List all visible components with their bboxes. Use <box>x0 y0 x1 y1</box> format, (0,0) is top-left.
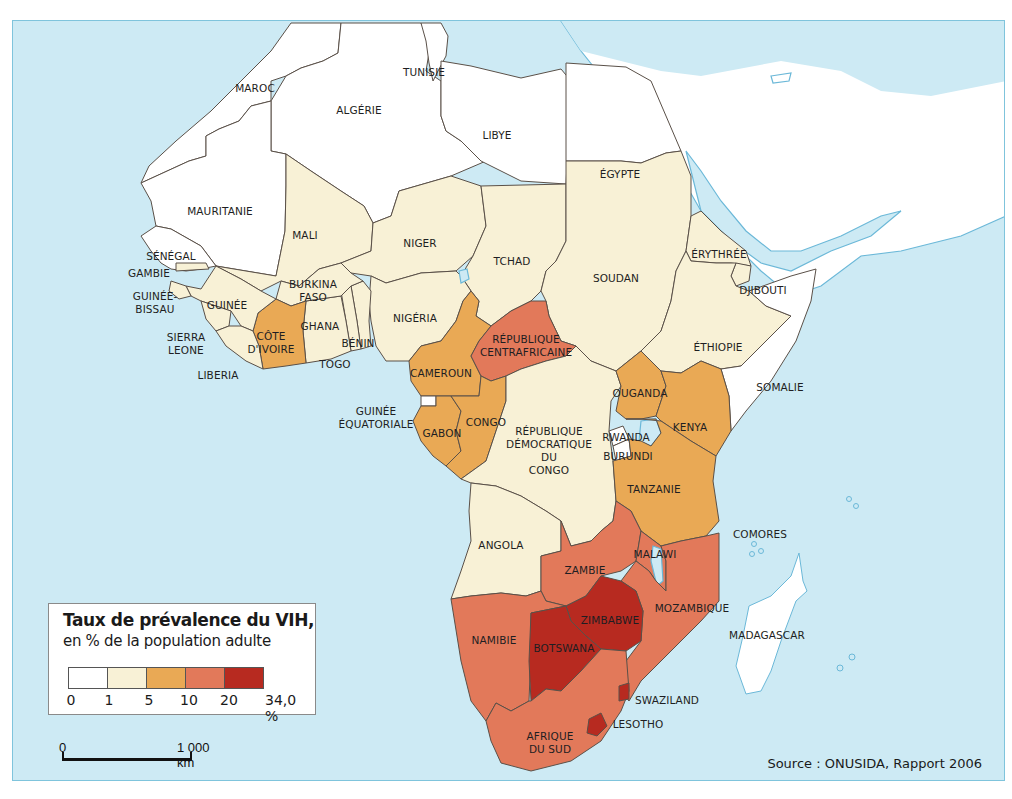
label-guinee-equatoriale: GUINÉEÉQUATORIALE <box>339 405 414 431</box>
label-afrique-sud: AFRIQUEDU SUD <box>527 730 574 756</box>
label-kenya: KENYA <box>673 421 708 434</box>
label-swaziland: SWAZILAND <box>635 694 699 707</box>
island-comores-3 <box>759 549 764 554</box>
country-swaziland[interactable] <box>619 683 629 701</box>
label-mali: MALI <box>292 229 318 242</box>
legend-tick: 10 <box>180 692 198 708</box>
label-mauritanie: MAURITANIE <box>187 205 253 218</box>
label-burundi: BURUNDI <box>603 450 653 463</box>
label-botswana: BOTSWANA <box>533 642 594 655</box>
label-gabon: GABON <box>423 427 462 440</box>
legend-title: Taux de prévalence du VIH, <box>63 610 314 630</box>
label-burkina-faso: BURKINAFASO <box>289 278 337 304</box>
label-togo: TOGO <box>319 358 350 371</box>
label-lesotho: LESOTHO <box>613 718 664 731</box>
label-malawi: MALAWI <box>633 548 676 561</box>
label-ethiopie: ÉTHIOPIE <box>693 341 742 354</box>
island-seychelles-1 <box>854 504 859 509</box>
label-guinee: GUINÉE <box>207 299 248 312</box>
label-erythree: ÉRYTHRÉE <box>691 248 746 261</box>
label-egypte: ÉGYPTE <box>600 168 641 181</box>
label-tunisie: TUNISIE <box>403 66 445 79</box>
label-namibie: NAMIBIE <box>472 634 517 647</box>
island-seychelles-2 <box>847 497 852 502</box>
label-cameroun: CAMEROUN <box>410 367 472 380</box>
label-comores: COMORES <box>733 528 787 541</box>
country-madagascar[interactable] <box>736 553 807 694</box>
label-maroc: MAROC <box>235 82 275 95</box>
legend-tick: 34,0 % <box>265 692 297 724</box>
label-zambie: ZAMBIE <box>565 564 606 577</box>
label-libye: LIBYE <box>482 129 511 142</box>
legend-subtitle: en % de la population adulte <box>63 632 271 650</box>
legend-swatch-20-34 <box>224 667 264 689</box>
label-mozambique: MOZAMBIQUE <box>655 602 730 615</box>
label-guinee-bissau: GUINÉE-BISSAU <box>133 290 178 316</box>
label-djibouti: DJIBOUTI <box>739 284 787 297</box>
source-note: Source : ONUSIDA, Rapport 2006 <box>767 756 982 771</box>
label-tanzanie: TANZANIE <box>627 483 680 496</box>
label-soudan: SOUDAN <box>593 272 639 285</box>
legend-swatch-10-20 <box>185 667 225 689</box>
scale-bar: 0 1 000 km <box>60 740 220 770</box>
legend-tick: 5 <box>145 692 154 708</box>
legend-swatch-1-5 <box>107 667 147 689</box>
legend-swatch-5-10 <box>146 667 186 689</box>
label-nigeria: NIGÉRIA <box>393 312 437 325</box>
island-mascarene-2 <box>837 665 843 671</box>
label-madagascar: MADAGASCAR <box>729 629 805 642</box>
label-rdc: RÉPUBLIQUEDÉMOCRATIQUEDUCONGO <box>506 425 592 477</box>
label-algerie: ALGÉRIE <box>336 104 382 117</box>
label-ghana: GHANA <box>301 320 340 333</box>
legend-tick: 20 <box>220 692 238 708</box>
label-rca: RÉPUBLIQUECENTRAFRICAINE <box>480 333 572 359</box>
island-mascarene-1 <box>849 654 855 660</box>
label-somalie: SOMALIE <box>756 381 803 394</box>
label-liberia: LIBERIA <box>197 369 238 382</box>
label-niger: NIGER <box>403 237 437 250</box>
label-senegal: SÉNÉGAL <box>146 250 196 263</box>
legend: Taux de prévalence du VIH, en % de la po… <box>48 603 316 715</box>
island-comores-2 <box>750 552 755 557</box>
island-comores-1 <box>752 542 757 547</box>
legend-swatch-0-1 <box>68 667 108 689</box>
label-benin: BÉNIN <box>341 337 374 350</box>
label-sierra-leone: SIERRALEONE <box>167 331 205 357</box>
label-tchad: TCHAD <box>494 255 531 268</box>
label-angola: ANGOLA <box>478 539 523 552</box>
label-rwanda: RWANDA <box>602 431 649 444</box>
label-cote-divoire: CÔTED'IVOIRE <box>247 330 294 356</box>
legend-tick: 0 <box>67 692 76 708</box>
label-ouganda: OUGANDA <box>613 387 668 400</box>
label-congo: CONGO <box>466 416 506 429</box>
scale-line <box>62 758 192 761</box>
label-gambie: GAMBIE <box>128 267 170 280</box>
legend-tick: 1 <box>105 692 114 708</box>
legend-ticks: 0 1 5 10 20 34,0 % <box>63 692 313 710</box>
country-guinee-equatoriale[interactable] <box>421 396 436 406</box>
label-zimbabwe: ZIMBABWE <box>581 614 639 627</box>
scale-max-label: 1 000 km <box>177 740 220 770</box>
country-gambie[interactable] <box>176 263 209 271</box>
legend-swatches <box>68 667 263 689</box>
